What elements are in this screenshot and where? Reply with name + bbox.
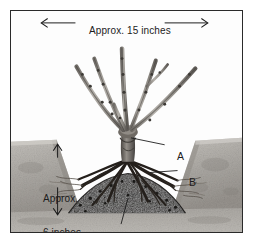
callout-label-a: A xyxy=(177,151,184,163)
figure-frame: Approx. 15 inches Approx. 6 inches A B C xyxy=(10,10,243,233)
callout-label-b: B xyxy=(189,177,196,189)
dimension-label-left: Approx. 6 inches xyxy=(43,171,81,233)
dimension-label-left-line2: 6 inches xyxy=(43,227,81,233)
callout-label-c: C xyxy=(118,231,126,233)
figure-root: Approx. 15 inches Approx. 6 inches A B C xyxy=(0,0,254,245)
dimension-label-top: Approx. 15 inches xyxy=(89,25,171,36)
dimension-label-left-line1: Approx. xyxy=(43,193,81,204)
